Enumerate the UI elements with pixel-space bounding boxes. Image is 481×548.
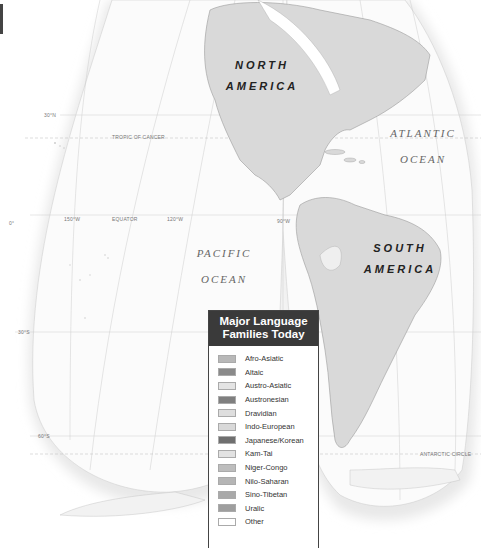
legend-title: Major Language Families Today (209, 311, 318, 346)
legend-item: Altaic (218, 366, 318, 380)
legend-label: Kam-Tai (245, 449, 273, 458)
legend-item: Afro-Asiatic (218, 352, 318, 366)
legend-item: Kam-Tai (218, 447, 318, 461)
language-families-legend: Major Language Families Today Afro-Asiat… (208, 310, 319, 548)
legend-item: Other (218, 515, 318, 529)
continent-label-south-america: SOUTH AMERICA (362, 238, 438, 280)
legend-swatch (218, 423, 236, 431)
legend-swatch (218, 504, 236, 512)
legend-title-line2: Families Today (211, 328, 316, 341)
lat-60s-label: 60°S (38, 433, 50, 439)
ocean-line2: OCEAN (184, 266, 264, 292)
legend-title-line1: Major Language (211, 315, 316, 328)
legend-label: Altaic (245, 368, 263, 377)
lat-30s-label: 30°S (18, 329, 30, 335)
legend-swatch (218, 464, 236, 472)
legend-item: Nilo-Saharan (218, 474, 318, 488)
antarctic-circle-label: ANTARCTIC CIRCLE (420, 451, 471, 457)
tropic-of-cancer-label: TROPIC OF CANCER (112, 134, 165, 140)
legend-label: Niger-Congo (245, 463, 288, 472)
legend-swatch (218, 450, 236, 458)
legend-label: Austronesian (245, 395, 289, 404)
legend-swatch (218, 477, 236, 485)
legend-list: Afro-Asiatic Altaic Austro-Asiatic Austr… (209, 346, 318, 529)
ocean-line1: PACIFIC (184, 240, 264, 266)
lat-30n-label: 30°N (44, 112, 56, 118)
legend-item: Uralic (218, 502, 318, 516)
lon-90w-label: 90°W (277, 218, 290, 224)
legend-item: Austronesian (218, 393, 318, 407)
legend-label: Japanese/Korean (245, 436, 304, 445)
legend-label: Indo-European (245, 422, 295, 431)
legend-item: Austro-Asiatic (218, 379, 318, 393)
legend-swatch (218, 518, 236, 526)
continent-label-north-america: NORTH AMERICA (212, 55, 312, 97)
continent-line1: NORTH (212, 55, 312, 76)
lon-150w-label: 150°W (64, 216, 80, 222)
legend-swatch (218, 396, 236, 404)
ocean-label-atlantic: ATLANTIC OCEAN (378, 120, 468, 172)
ocean-line2: OCEAN (378, 146, 468, 172)
legend-label: Dravidian (245, 409, 277, 418)
legend-label: Uralic (245, 504, 264, 513)
legend-swatch (218, 491, 236, 499)
legend-label: Nilo-Saharan (245, 477, 289, 486)
legend-label: Afro-Asiatic (245, 354, 283, 363)
legend-item: Dravidian (218, 406, 318, 420)
legend-label: Austro-Asiatic (245, 381, 291, 390)
ocean-label-pacific: PACIFIC OCEAN (184, 240, 264, 292)
legend-swatch (218, 382, 236, 390)
legend-item: Japanese/Korean (218, 434, 318, 448)
lat-0-label: 0° (9, 220, 14, 226)
legend-swatch (218, 368, 236, 376)
continent-line2: AMERICA (362, 259, 438, 280)
legend-item: Sino-Tibetan (218, 488, 318, 502)
legend-swatch (218, 355, 236, 363)
legend-item: Niger-Congo (218, 461, 318, 475)
legend-label: Other (245, 517, 264, 526)
legend-swatch (218, 436, 236, 444)
equator-label: EQUATOR (112, 216, 138, 222)
continent-line1: SOUTH (362, 238, 438, 259)
ocean-line1: ATLANTIC (378, 120, 468, 146)
legend-label: Sino-Tibetan (245, 490, 287, 499)
legend-swatch (218, 409, 236, 417)
legend-item: Indo-European (218, 420, 318, 434)
lon-120w-label: 120°W (167, 216, 183, 222)
continent-line2: AMERICA (212, 76, 312, 97)
